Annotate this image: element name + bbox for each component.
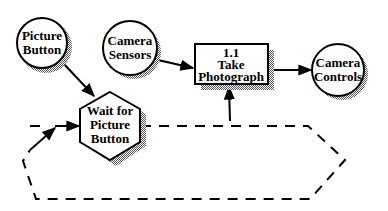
node-wait-line1: Wait for (87, 103, 134, 118)
trigger-flow-take-photograph (229, 87, 230, 121)
node-wait-line3: Button (91, 131, 130, 146)
node-wait-line2: Picture (90, 117, 130, 132)
node-wait-for-picture-button: Wait for Picture Button (80, 92, 146, 166)
node-picture-button-line1: Picture (22, 28, 62, 43)
node-take-photograph: 1.1 Take Photograph (195, 44, 274, 90)
dashed-loop-flow (23, 126, 345, 199)
flow-sensors-to-take-photograph (158, 60, 193, 68)
node-camera-sensors: Camera Sensors (103, 21, 161, 79)
node-camera-controls-line2: Controls (314, 69, 362, 84)
flow-picture-button-to-wait (63, 63, 94, 96)
node-camera-controls-line1: Camera (316, 55, 361, 70)
node-picture-button-line2: Button (23, 42, 62, 57)
node-picture-button: Picture Button (17, 18, 72, 73)
node-camera-sensors-line1: Camera (108, 33, 153, 48)
node-camera-sensors-line2: Sensors (109, 47, 152, 62)
diagram-canvas: Picture Button Camera Sensors 1.1 Take P… (0, 0, 388, 211)
node-camera-controls: Camera Controls (312, 44, 368, 100)
node-take-photograph-line3: Photograph (198, 69, 265, 84)
